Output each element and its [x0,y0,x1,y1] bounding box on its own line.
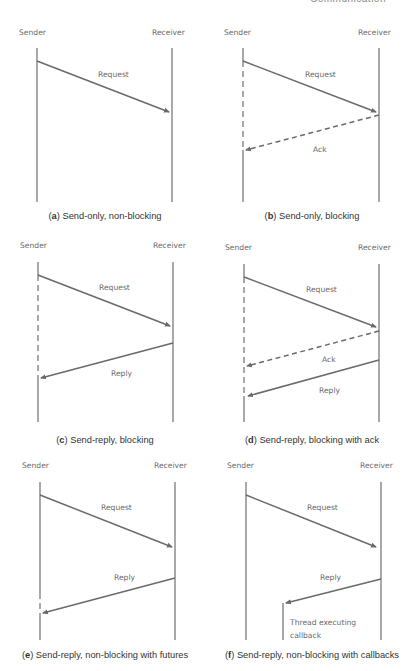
request-label: Request [307,503,338,512]
caption-letter: a [52,211,58,221]
request-label: Request [305,70,336,79]
reply-arrow [286,579,381,603]
request-arrow [37,61,169,112]
receiver-label: Receiver [360,461,394,470]
receiver-label: Receiver [358,243,392,252]
sender-label: Sender [20,241,48,250]
reply-arrow [41,343,173,378]
caption-f: (f) Send-reply, non-blocking with callba… [225,650,399,660]
sender-label: Sender [22,461,50,470]
callback-note-line2: callback [290,631,322,640]
receiver-label: Receiver [154,461,188,470]
sender-label: Sender [224,28,252,37]
sender-label: Sender [19,28,47,37]
reply-arrow [248,360,379,396]
receiver-label: Receiver [358,28,392,37]
caption-text: Send-only, non-blocking [62,211,161,221]
reply-label: Reply [111,369,133,378]
caption-e: (e) Send-reply, non-blocking with future… [22,650,189,660]
caption-b: (b) Send-only, blocking [265,211,360,221]
sender-label: Sender [227,461,255,470]
request-label: Request [101,503,132,512]
receiver-label: Receiver [152,28,186,37]
panel-f: Sender Receiver Request Reply Thread exe… [225,461,399,660]
panel-c: Sender Receiver Request Reply (c) Send-r… [20,241,187,445]
sequence-diagrams-figure: Sender Receiver Request (a) Send-only, n… [0,0,420,671]
request-label: Request [99,283,130,292]
receiver-label: Receiver [153,241,187,250]
panel-a: Sender Receiver Request (a) Send-only, n… [19,28,186,221]
sender-label: Sender [225,243,253,252]
panel-d: Sender Receiver Request Ack Reply (d) Se… [225,243,392,445]
panel-b: Sender Receiver Request Ack (b) Send-onl… [224,28,392,221]
caption-a: (a) Send-only, non-blocking [48,211,161,221]
ack-label: Ack [313,145,327,154]
ack-arrow [247,331,379,366]
request-label: Request [306,285,337,294]
reply-label: Reply [114,573,136,582]
reply-label: Reply [319,386,341,395]
request-label: Request [98,70,129,79]
panel-e: Sender Receiver Request Reply (e) Send-r… [22,461,189,660]
reply-arrow [43,578,175,613]
caption-c: (c) Send-reply, blocking [56,435,154,445]
callback-note-line1: Thread executing [289,618,356,627]
caption-d: (d) Send-reply, blocking with ack [245,435,380,445]
reply-label: Reply [320,573,342,582]
ack-label: Ack [322,355,336,364]
request-arrow [243,61,376,112]
